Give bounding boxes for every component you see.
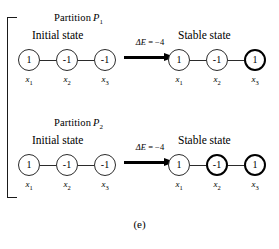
chain-edge — [78, 165, 94, 166]
chain-edge — [190, 165, 206, 166]
partition-label-prefix: Partition — [54, 117, 91, 128]
spin-node-highlighted[interactable]: 1 — [244, 154, 266, 176]
node-wrap: -1 x2 — [56, 154, 80, 196]
energy-delta-label-p1: ΔE = −4 — [122, 37, 178, 47]
node-wrap: -1 x2 — [56, 49, 80, 91]
node-wrap: -1 x3 — [94, 154, 118, 196]
partition-group-bracket — [7, 17, 17, 198]
partition-label-p2: PartitionP2 — [54, 117, 103, 131]
node-wrap: -1 x2 — [206, 49, 230, 91]
node-wrap: 1 x1 — [168, 49, 192, 91]
node-variable-label: x2 — [206, 179, 228, 191]
node-wrap: -1 x2 — [206, 154, 230, 196]
partition-label-symbol: P1 — [93, 12, 103, 23]
node-wrap: 1 x3 — [244, 154, 268, 196]
partition-label-prefix: Partition — [54, 12, 91, 23]
spin-node-highlighted[interactable]: -1 — [206, 154, 228, 176]
chain-edge — [190, 60, 206, 61]
chain-edge — [78, 60, 94, 61]
spin-node[interactable]: 1 — [18, 154, 40, 176]
node-wrap: 1 x1 — [18, 49, 42, 91]
chain-edge — [228, 165, 244, 166]
stable-state-heading-p1: Stable state — [178, 29, 231, 41]
node-wrap: 1 x3 — [244, 49, 268, 91]
node-wrap: -1 x3 — [94, 49, 118, 91]
partition-label-symbol: P2 — [93, 117, 103, 128]
node-variable-label: x3 — [244, 179, 266, 191]
spin-node[interactable]: -1 — [94, 49, 116, 71]
node-variable-label: x3 — [94, 179, 116, 191]
spin-node[interactable]: -1 — [206, 49, 228, 71]
spin-node[interactable]: -1 — [56, 154, 78, 176]
node-wrap: 1 x1 — [168, 154, 192, 196]
figure-caption: (e) — [0, 218, 279, 230]
spin-node[interactable]: 1 — [168, 154, 190, 176]
node-variable-label: x2 — [56, 179, 78, 191]
node-variable-label: x1 — [18, 179, 40, 191]
initial-state-heading-p1: Initial state — [32, 29, 83, 41]
node-variable-label: x2 — [206, 74, 228, 86]
partition-label-p1: PartitionP1 — [54, 12, 103, 26]
node-variable-label: x2 — [56, 74, 78, 86]
node-variable-label: x1 — [168, 179, 190, 191]
spin-node-highlighted[interactable]: 1 — [244, 49, 266, 71]
node-variable-label: x3 — [94, 74, 116, 86]
spin-node[interactable]: -1 — [94, 154, 116, 176]
spin-node[interactable]: 1 — [18, 49, 40, 71]
chain-edge — [40, 60, 56, 61]
node-variable-label: x3 — [244, 74, 266, 86]
node-variable-label: x1 — [18, 74, 40, 86]
chain-edge — [228, 60, 244, 61]
node-wrap: 1 x1 — [18, 154, 42, 196]
spin-node[interactable]: -1 — [56, 49, 78, 71]
spin-node[interactable]: 1 — [168, 49, 190, 71]
initial-state-heading-p2: Initial state — [32, 134, 83, 146]
energy-delta-label-p2: ΔE = −4 — [122, 142, 178, 152]
node-variable-label: x1 — [168, 74, 190, 86]
stable-state-heading-p2: Stable state — [178, 134, 231, 146]
chain-edge — [40, 165, 56, 166]
